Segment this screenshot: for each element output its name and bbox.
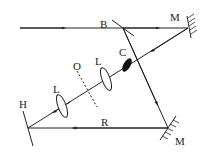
label-c: C xyxy=(119,47,126,58)
label-m-top: M xyxy=(170,12,180,23)
label-h: H xyxy=(19,99,27,110)
label-l-left: L xyxy=(53,84,60,95)
lens-left xyxy=(54,93,70,118)
object-plane xyxy=(77,71,97,107)
mirror-top xyxy=(187,14,197,38)
label-r: R xyxy=(101,117,108,128)
label-b: B xyxy=(100,19,107,30)
label-o: O xyxy=(73,61,81,72)
lens-right xyxy=(98,66,114,91)
crystal xyxy=(120,57,134,73)
optical-setup-diagram: B M C L O L H R M xyxy=(0,0,207,156)
label-l-right: L xyxy=(95,56,102,67)
label-m-bottom: M xyxy=(175,136,185,147)
